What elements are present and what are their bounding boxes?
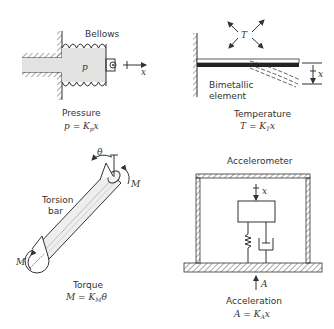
spring (245, 222, 251, 263)
seismic-mass (238, 201, 275, 222)
bimetallic-strip (197, 59, 299, 67)
acceleration-caption: Acceleration (226, 296, 282, 306)
moment-label-bottom: M (15, 257, 26, 267)
temperature-caption: Temperature (233, 109, 291, 119)
pressure-variable-label: p (82, 62, 88, 72)
displacement-label: x (141, 67, 146, 77)
torque-panel: θ M M Torsion bar Torque M = KMθ (15, 147, 141, 303)
bellows (22, 44, 116, 86)
accelerometer-label: Accelerometer (227, 156, 293, 166)
acceleration-input-label: A (260, 279, 268, 289)
temperature-equation: T = KTx (240, 121, 275, 132)
bimetallic-label-line2: element (209, 91, 247, 101)
moment-label-top: M (130, 179, 141, 189)
pressure-equation: p = Kpx (64, 121, 99, 133)
moment-arrow-top (126, 170, 129, 184)
fixed-wall (193, 33, 197, 97)
displacement-marker (253, 184, 259, 200)
temperature-panel: x T Bimetallic element Temperature T = K… (193, 20, 323, 132)
torque-equation: M = KMθ (65, 292, 107, 303)
torsion-bar-label-line2: bar (48, 206, 63, 216)
acceleration-equation: A = KAx (233, 309, 270, 320)
bimetallic-label-line1: Bimetallic (209, 80, 254, 90)
transducer-diagram: x p Bellows Pressure p = Kpx x (0, 0, 334, 329)
damper (259, 222, 273, 263)
torsion-bar (25, 169, 122, 273)
temperature-variable-label: T (241, 30, 248, 40)
bellows-label: Bellows (85, 29, 120, 39)
angle-label: θ (97, 147, 103, 157)
pressure-caption: Pressure (62, 108, 101, 118)
acceleration-panel: Accelerometer x A Acceleration A = K (184, 156, 322, 320)
torsion-bar-label-line1: Torsion (41, 195, 74, 205)
accelerometer-housing (184, 174, 322, 272)
pressure-panel: x p Bellows Pressure p = Kpx (22, 29, 146, 133)
displacement-label: x (318, 69, 323, 79)
torque-caption: Torque (72, 280, 103, 290)
displacement-label: x (262, 186, 267, 196)
